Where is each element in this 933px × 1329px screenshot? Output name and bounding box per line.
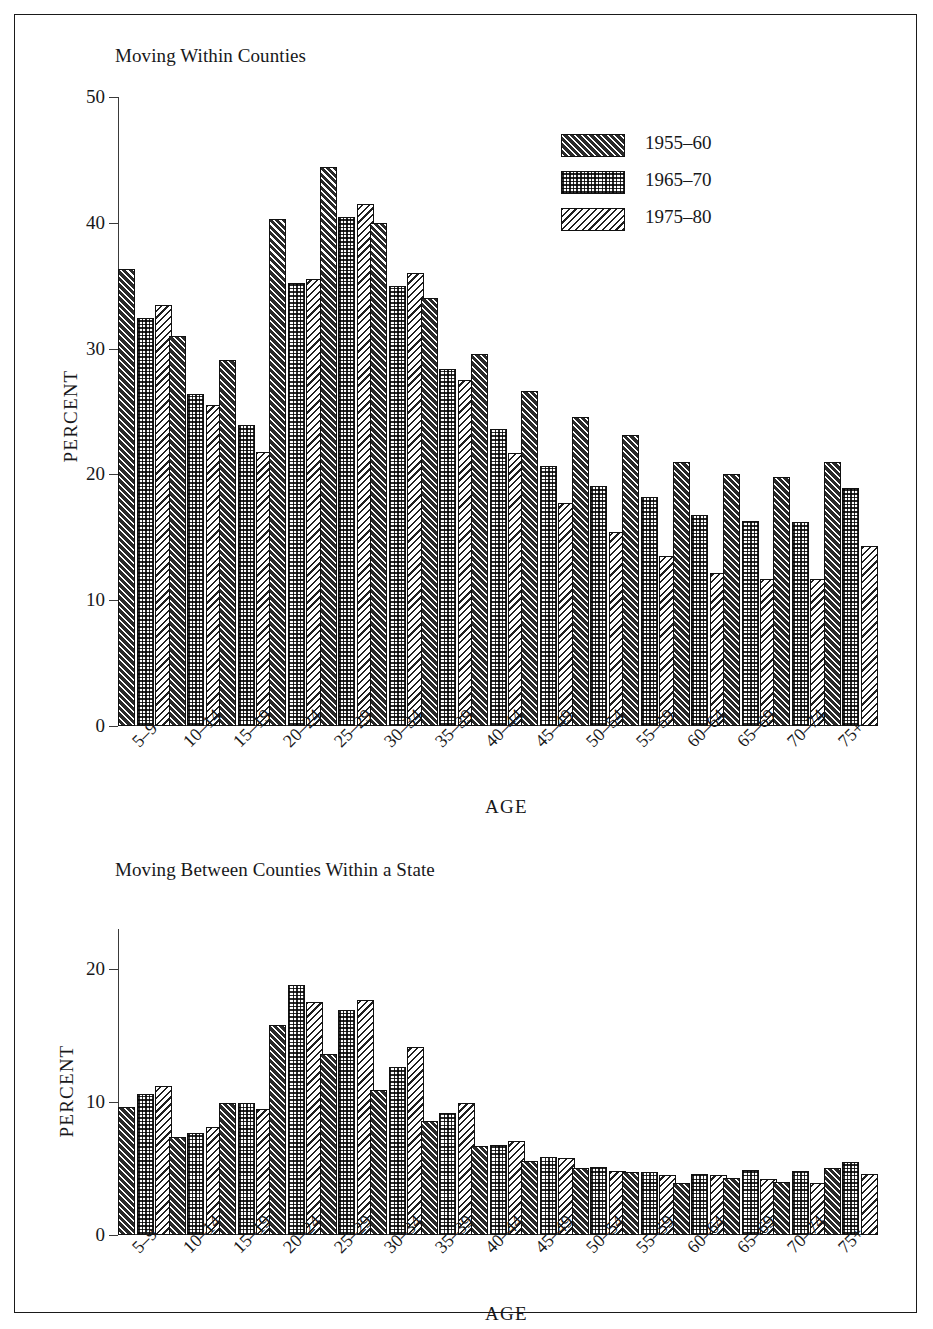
bar xyxy=(421,298,438,726)
y-axis-tick xyxy=(109,474,118,475)
bar-group xyxy=(118,929,172,1235)
bar-group xyxy=(471,929,525,1235)
bar xyxy=(288,985,305,1235)
bar xyxy=(219,360,236,726)
bar-group xyxy=(169,97,223,726)
bar xyxy=(673,462,690,726)
bar xyxy=(370,1090,387,1235)
bar xyxy=(572,417,589,726)
y-axis-tick-label: 0 xyxy=(96,1224,106,1246)
legend-swatch-light-diagonal-hatch xyxy=(561,208,625,231)
bar-group xyxy=(773,929,827,1235)
bar-group xyxy=(370,97,424,726)
bar xyxy=(169,1137,186,1235)
bar xyxy=(842,1162,859,1235)
bar-group xyxy=(269,97,323,726)
bar xyxy=(370,223,387,726)
bar xyxy=(320,167,337,726)
x-axis-title-2: AGE xyxy=(485,1303,528,1325)
bar-group xyxy=(824,929,878,1235)
bar xyxy=(320,1054,337,1235)
x-axis-title-1: AGE xyxy=(485,796,528,818)
bar xyxy=(490,429,507,726)
y-axis-tick-label: 20 xyxy=(86,463,105,485)
bar-group xyxy=(421,97,475,726)
bar-group xyxy=(118,97,172,726)
legend-1: 1955–601965–701975–80 xyxy=(561,133,821,244)
bar-group xyxy=(824,97,878,726)
plot-area-2: 01020 xyxy=(118,929,874,1235)
bar xyxy=(288,283,305,726)
bar xyxy=(219,1103,236,1235)
bar-group xyxy=(572,929,626,1235)
y-axis-tick-label: 40 xyxy=(86,212,105,234)
bar xyxy=(118,269,135,726)
bar-group xyxy=(320,97,374,726)
bar-group xyxy=(269,929,323,1235)
bar-group xyxy=(219,929,273,1235)
bar xyxy=(439,1113,456,1235)
y-axis-tick-label: 0 xyxy=(96,715,106,737)
bar xyxy=(269,1025,286,1235)
y-axis-tick xyxy=(109,97,118,98)
legend-label: 1965–70 xyxy=(645,169,712,191)
legend-swatch-dark-diagonal-hatch xyxy=(561,134,625,157)
chart-title-2: Moving Between Counties Within a State xyxy=(115,859,435,881)
legend-item: 1955–60 xyxy=(561,133,821,159)
y-axis-tick xyxy=(109,223,118,224)
bar-group xyxy=(622,929,676,1235)
chart-title-1: Moving Within Counties xyxy=(115,45,306,67)
bar xyxy=(238,1103,255,1235)
bar xyxy=(439,369,456,726)
bar xyxy=(521,391,538,726)
legend-item: 1965–70 xyxy=(561,170,821,196)
bar xyxy=(137,1094,154,1235)
bar xyxy=(471,354,488,726)
bar xyxy=(540,466,557,726)
legend-item: 1975–80 xyxy=(561,207,821,233)
y-axis-title-1: PERCENT xyxy=(60,356,82,476)
bar-group xyxy=(723,929,777,1235)
bar xyxy=(338,217,355,726)
y-axis-tick-label: 20 xyxy=(86,958,105,980)
bar xyxy=(137,318,154,726)
bar xyxy=(641,497,658,726)
legend-swatch-dotted-checker xyxy=(561,171,625,194)
bar xyxy=(269,219,286,726)
bar xyxy=(691,515,708,726)
bar xyxy=(861,546,878,726)
bar-group xyxy=(169,929,223,1235)
bar-group xyxy=(219,97,273,726)
bar xyxy=(389,1067,406,1235)
bar xyxy=(622,435,639,726)
y-axis-tick-label: 10 xyxy=(86,1091,105,1113)
y-axis-tick xyxy=(109,349,118,350)
y-axis-tick-label: 50 xyxy=(86,86,105,108)
y-axis-tick xyxy=(109,969,118,970)
bar-group xyxy=(320,929,374,1235)
bar-group xyxy=(521,929,575,1235)
chart-panel-moving-between-counties: Moving Between Counties Within a State P… xyxy=(15,835,918,1305)
y-axis-tick-label: 10 xyxy=(86,589,105,611)
legend-label: 1955–60 xyxy=(645,132,712,154)
bar xyxy=(590,486,607,726)
y-axis-title-2: PERCENT xyxy=(56,1031,78,1151)
bar xyxy=(187,394,204,726)
bar-group xyxy=(673,929,727,1235)
bar xyxy=(773,477,790,726)
figure-border: Moving Within Counties PERCENT 010203040… xyxy=(14,14,917,1313)
y-axis-tick-label: 30 xyxy=(86,338,105,360)
bar xyxy=(824,462,841,726)
y-axis-tick xyxy=(109,1102,118,1103)
legend-label: 1975–80 xyxy=(645,206,712,228)
bar xyxy=(238,425,255,726)
chart-panel-moving-within-counties: Moving Within Counties PERCENT 010203040… xyxy=(15,15,918,815)
bar xyxy=(861,1174,878,1235)
bar xyxy=(421,1121,438,1235)
bar xyxy=(169,336,186,726)
bar xyxy=(742,521,759,726)
bar xyxy=(338,1010,355,1235)
y-axis-tick xyxy=(109,726,118,727)
bar xyxy=(723,474,740,726)
bar-groups-2 xyxy=(118,929,874,1235)
